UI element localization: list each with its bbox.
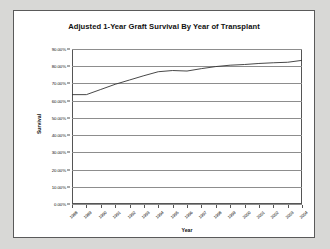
x-axis-tick-label: 2000 [241, 210, 251, 220]
x-axis-title: Year [72, 227, 302, 233]
y-axis-tick-mark [67, 49, 70, 50]
x-axis-tick-label: 1999 [227, 210, 237, 220]
x-axis-tick-label: 1998 [212, 210, 222, 220]
x-axis-tick-mark [201, 205, 202, 208]
x-axis-tick-label: 1989 [83, 210, 93, 220]
x-axis-tick-mark [230, 205, 231, 208]
data-series-line [72, 49, 302, 204]
y-axis-tick-mark [67, 169, 70, 170]
x-axis-tick-labels: 1988198919901991199219931994199519961997… [72, 205, 302, 229]
x-axis-tick-mark [101, 205, 102, 208]
x-axis-tick-mark [173, 205, 174, 208]
x-axis-tick-label: 1993 [140, 210, 150, 220]
y-axis-tick-mark [67, 100, 70, 101]
x-axis-tick-mark [273, 205, 274, 208]
x-axis-tick-mark [130, 205, 131, 208]
chart-title: Adjusted 1-Year Graft Survival By Year o… [14, 22, 314, 31]
x-axis-tick-mark [245, 205, 246, 208]
y-axis-tick-label: 0.00% [54, 202, 66, 207]
y-axis-tick-mark [67, 117, 70, 118]
x-axis-tick-label: 2002 [270, 210, 280, 220]
y-axis-tick-label: 60.00% [52, 98, 66, 103]
y-axis-tick-mark [67, 135, 70, 136]
y-axis-tick-mark [67, 152, 70, 153]
x-axis-tick-label: 2003 [284, 210, 294, 220]
x-axis-tick-mark [72, 205, 73, 208]
chart-frame: Adjusted 1-Year Graft Survival By Year o… [13, 10, 315, 238]
x-axis-tick-label: 1991 [112, 210, 122, 220]
x-axis-tick-label: 1990 [97, 210, 107, 220]
x-axis-tick-label: 2004 [299, 210, 309, 220]
x-axis-tick-label: 1995 [169, 210, 179, 220]
x-axis-tick-label: 1992 [126, 210, 136, 220]
x-axis-tick-mark [302, 205, 303, 208]
x-axis-tick-mark [115, 205, 116, 208]
x-axis-tick-label: 1997 [198, 210, 208, 220]
x-axis-tick-label: 1988 [69, 210, 79, 220]
x-axis-tick-label: 1994 [155, 210, 165, 220]
x-axis-tick-mark [288, 205, 289, 208]
y-axis-tick-label: 10.00% [52, 184, 66, 189]
x-axis-tick-label: 2001 [255, 210, 265, 220]
y-axis-tick-mark [67, 66, 70, 67]
y-axis-tick-label: 40.00% [52, 133, 66, 138]
x-axis-tick-mark [144, 205, 145, 208]
y-axis-tick-label: 20.00% [52, 167, 66, 172]
y-axis-tick-mark [67, 83, 70, 84]
x-axis-tick-mark [216, 205, 217, 208]
y-axis-tick-mark [67, 186, 70, 187]
x-axis-tick-mark [158, 205, 159, 208]
y-axis-tick-label: 70.00% [52, 81, 66, 86]
x-axis-tick-label: 1996 [184, 210, 194, 220]
plot-wrapper: 0.00%10.00%20.00%30.00%40.00%50.00%60.00… [72, 49, 302, 204]
y-axis-tick-labels: 0.00%10.00%20.00%30.00%40.00%50.00%60.00… [36, 49, 70, 204]
y-axis-tick-label: 80.00% [52, 64, 66, 69]
x-axis-tick-mark [187, 205, 188, 208]
x-axis-tick-mark [259, 205, 260, 208]
y-axis-tick-label: 30.00% [52, 150, 66, 155]
y-axis-tick-label: 50.00% [52, 115, 66, 120]
x-axis-tick-mark [86, 205, 87, 208]
y-axis-tick-label: 90.00% [52, 47, 66, 52]
y-axis-tick-mark [67, 204, 70, 205]
